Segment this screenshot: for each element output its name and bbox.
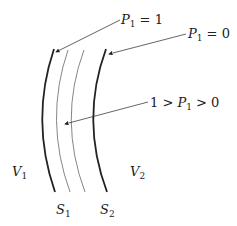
surface-s2-curve bbox=[93, 49, 107, 192]
label-pre: 1 > bbox=[150, 95, 177, 110]
arrow-p1-equals-1 bbox=[56, 20, 120, 52]
label-rest: > 0 bbox=[192, 95, 219, 110]
surface-s1-curve bbox=[42, 49, 55, 192]
label-sub: 2 bbox=[109, 209, 115, 219]
label-rest: = 0 bbox=[202, 26, 229, 41]
label-var: V bbox=[130, 164, 139, 179]
label-s1: S1 bbox=[56, 203, 71, 219]
label-var: P bbox=[177, 95, 186, 110]
label-var: P bbox=[121, 12, 130, 27]
label-var: S bbox=[56, 202, 65, 217]
label-p1-equals-0: P1 = 0 bbox=[188, 27, 230, 43]
arrow-p1-between bbox=[65, 102, 148, 124]
arrow-p1-equals-0 bbox=[109, 34, 186, 54]
label-v2: V2 bbox=[130, 165, 145, 181]
label-var: V bbox=[12, 164, 21, 179]
intermediate-curve-1 bbox=[56, 50, 70, 192]
label-var: P bbox=[188, 26, 197, 41]
label-sub: 2 bbox=[139, 171, 145, 181]
label-sub: 1 bbox=[21, 171, 27, 181]
intermediate-curve-2 bbox=[71, 50, 85, 192]
label-p1-between: 1 > P1 > 0 bbox=[150, 96, 219, 112]
label-p1-equals-1: P1 = 1 bbox=[121, 13, 163, 29]
label-s2: S2 bbox=[100, 203, 115, 219]
label-rest: = 1 bbox=[135, 12, 162, 27]
label-var: S bbox=[100, 202, 109, 217]
label-v1: V1 bbox=[12, 165, 27, 181]
label-sub: 1 bbox=[65, 209, 71, 219]
